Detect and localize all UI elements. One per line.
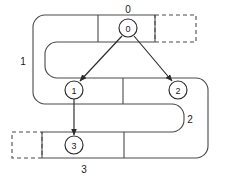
row-0-dashed-cell xyxy=(155,15,196,42)
row-3-dashed-cell xyxy=(12,132,42,158)
edge-0-to-1 xyxy=(80,36,122,81)
level-label-0: 0 xyxy=(125,4,131,15)
edge-0-to-2 xyxy=(134,36,172,81)
diagram-canvas: 0 1 2 3 0 1 2 3 xyxy=(0,0,228,179)
node-3[interactable]: 3 xyxy=(65,136,83,154)
node-1[interactable]: 1 xyxy=(65,81,83,99)
tree-structure-diagram: 0 1 2 3 0 1 2 3 xyxy=(0,0,228,179)
level-labels-group: 0 1 2 3 xyxy=(20,4,193,175)
row-0-cells xyxy=(98,15,196,42)
node-0-label: 0 xyxy=(125,24,130,34)
node-2-label: 2 xyxy=(175,86,180,96)
level-label-2: 2 xyxy=(187,114,193,125)
node-2[interactable]: 2 xyxy=(169,81,187,99)
node-0[interactable]: 0 xyxy=(119,19,137,37)
level-label-1: 1 xyxy=(20,56,26,67)
node-1-label: 1 xyxy=(71,86,76,96)
node-3-label: 3 xyxy=(71,141,76,151)
level-label-3: 3 xyxy=(81,164,87,175)
